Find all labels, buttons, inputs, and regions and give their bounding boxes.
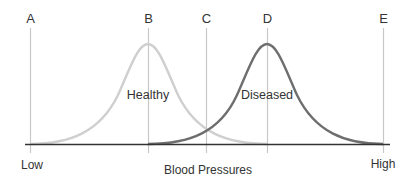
marker-label-c: C bbox=[202, 11, 211, 26]
marker-label-a: A bbox=[26, 11, 35, 26]
diseased-label: Diseased bbox=[241, 88, 293, 102]
marker-label-d: D bbox=[263, 11, 272, 26]
marker-label-b: B bbox=[144, 11, 153, 26]
x-axis-title: Blood Pressures bbox=[164, 163, 252, 177]
healthy-label: Healthy bbox=[127, 88, 170, 102]
axis-low-label: Low bbox=[21, 158, 43, 172]
marker-lines bbox=[31, 28, 384, 153]
blood-pressure-distribution-diagram: A B C D E Healthy Diseased Low High Bloo… bbox=[0, 0, 409, 184]
marker-label-e: E bbox=[379, 11, 388, 26]
axis-high-label: High bbox=[371, 157, 396, 171]
